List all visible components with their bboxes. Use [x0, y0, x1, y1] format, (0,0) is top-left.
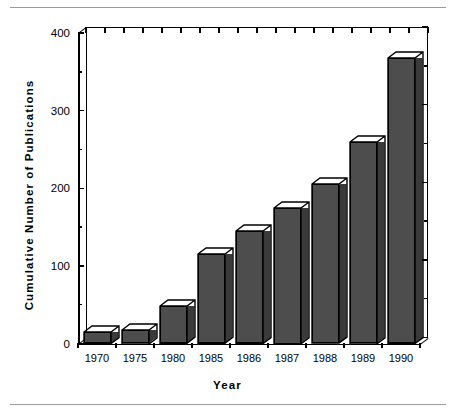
x-axis-tick-top: [104, 27, 105, 33]
y-axis-tick-major: [78, 32, 84, 33]
bar-outline: [198, 248, 233, 343]
x-axis-tick-top: [180, 27, 181, 33]
bar-1980: [160, 300, 195, 343]
y-axis-tick-minor: [78, 304, 82, 305]
x-axis-tick-label: 1986: [230, 352, 268, 364]
x-axis-tick-top: [370, 27, 371, 33]
x-axis-tick-top: [313, 27, 314, 33]
y-axis-tick-label: 400: [36, 27, 70, 39]
x-axis-tick-label: 1987: [268, 352, 306, 364]
x-axis-tick-bottom: [229, 343, 230, 348]
bar-1970: [84, 326, 119, 344]
y-axis-tick-minor: [78, 149, 82, 150]
x-axis-tick-top: [294, 27, 295, 33]
x-axis-tick-label: 1990: [382, 352, 420, 364]
x-axis-tick-top: [199, 27, 200, 33]
x-axis-tick-top: [161, 27, 162, 33]
bar-outline: [122, 324, 157, 344]
x-axis-tick-label: 1988: [306, 352, 344, 364]
y-axis-tick-minor-right: [424, 298, 428, 299]
y-axis-tick-minor-right: [424, 65, 428, 66]
x-axis-tick-label: 1989: [344, 352, 382, 364]
bar-outline: [274, 202, 309, 344]
bar-1985: [198, 248, 233, 343]
figure-bottom-rule: [10, 404, 446, 405]
y-axis-tick-label: 200: [36, 182, 70, 194]
x-axis-title: Year: [0, 379, 455, 391]
x-axis-tick-label: 1985: [192, 352, 230, 364]
plot-area: [78, 27, 428, 345]
y-axis-title: Cumulative Number of Publications: [20, 25, 38, 365]
bar-1989: [350, 136, 385, 344]
x-axis-tick-bottom: [153, 343, 154, 348]
x-axis-tick-bottom: [343, 343, 344, 348]
figure-bar-chart: Cumulative Number of Publications 010020…: [0, 0, 455, 419]
y-axis-tick-major: [78, 188, 84, 189]
x-axis-tick-bottom: [419, 343, 420, 348]
x-axis-tick-top: [123, 27, 124, 33]
x-axis-tick-label: 1970: [78, 352, 116, 364]
x-axis-tick-label: 1975: [116, 352, 154, 364]
bar-1986: [236, 225, 271, 344]
y-axis-line: [78, 33, 80, 345]
bar-outline: [236, 225, 271, 344]
y-axis-tick-minor-right: [424, 220, 428, 221]
bar-outline: [84, 326, 119, 344]
x-axis-tick-top: [275, 27, 276, 33]
x-axis-tick-top: [237, 27, 238, 33]
bar-1975: [122, 324, 157, 344]
bar-1987: [274, 202, 309, 344]
x-axis-tick-top: [389, 27, 390, 33]
x-axis-tick-top: [256, 27, 257, 33]
y-axis-tick-minor-right: [424, 143, 428, 144]
y-axis-tick-major: [78, 265, 84, 266]
x-axis-tick-top: [85, 27, 86, 33]
y-axis-tick-major: [78, 110, 84, 111]
x-axis-tick-top: [218, 27, 219, 33]
bar-outline: [312, 178, 347, 343]
x-axis-tick-bottom: [77, 343, 78, 348]
x-axis-tick-top: [427, 27, 428, 33]
x-axis-tick-bottom: [267, 343, 268, 348]
x-axis-tick-top: [332, 27, 333, 33]
y-axis-tick-minor: [78, 226, 82, 227]
y-axis-tick-label: 100: [36, 260, 70, 272]
x-axis-tick-bottom: [305, 343, 306, 348]
bar-1988: [312, 178, 347, 343]
y-axis-tick-label: 0: [36, 338, 70, 350]
bar-1990: [388, 52, 423, 344]
bar-outline: [160, 300, 195, 343]
y-axis-tick-label: 300: [36, 105, 70, 117]
bar-outline: [388, 52, 423, 344]
x-axis-tick-top: [142, 27, 143, 33]
x-axis-tick-label: 1980: [154, 352, 192, 364]
x-axis-tick-bottom: [381, 343, 382, 348]
x-axis-tick-bottom: [191, 343, 192, 348]
figure-top-rule: [10, 7, 446, 8]
bar-outline: [350, 136, 385, 344]
x-axis-tick-bottom: [115, 343, 116, 348]
x-axis-tick-top: [408, 27, 409, 33]
x-axis-tick-top: [351, 27, 352, 33]
y-axis-tick-minor: [78, 71, 82, 72]
